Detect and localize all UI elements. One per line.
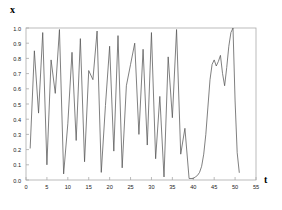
x-tick-label: 0 — [24, 184, 27, 190]
y-tick-label: 0.0 — [13, 178, 21, 184]
x-tick-label: 5 — [45, 184, 48, 190]
y-tick-label: 0.2 — [13, 147, 21, 153]
x-axis-ticks: 0510152025303540455055 — [24, 177, 259, 190]
y-tick-label: 0.8 — [13, 56, 21, 62]
plot-frame-rect — [26, 28, 256, 180]
x-tick-label: 30 — [148, 184, 154, 190]
x-tick-label: 20 — [107, 184, 113, 190]
x-tick-label: 35 — [169, 184, 175, 190]
x-tick-label: 55 — [253, 184, 259, 190]
y-tick-label: 0.7 — [13, 71, 21, 77]
y-axis-ticks: 0.00.10.20.30.40.50.60.70.80.91.0 — [13, 26, 29, 184]
chart-screenshot: x t 0.00.10.20.30.40.50.60.70.80.91.0 05… — [0, 0, 282, 210]
y-tick-label: 0.5 — [13, 102, 21, 108]
data-series-layer — [30, 28, 239, 178]
x-tick-label: 25 — [127, 184, 133, 190]
x-tick-label: 10 — [65, 184, 71, 190]
y-tick-label: 1.0 — [13, 26, 21, 32]
plot-canvas: 0.00.10.20.30.40.50.60.70.80.91.0 051015… — [0, 0, 282, 210]
y-tick-label: 0.6 — [13, 86, 21, 92]
x-tick-label: 15 — [86, 184, 92, 190]
y-tick-label: 0.9 — [13, 41, 21, 47]
plot-frame — [26, 28, 256, 180]
data-series-line — [30, 28, 239, 178]
x-tick-label: 40 — [190, 184, 196, 190]
x-tick-label: 45 — [211, 184, 217, 190]
y-tick-label: 0.4 — [13, 117, 21, 123]
y-tick-label: 0.3 — [13, 132, 21, 138]
y-tick-label: 0.1 — [13, 162, 21, 168]
x-tick-label: 50 — [232, 184, 238, 190]
